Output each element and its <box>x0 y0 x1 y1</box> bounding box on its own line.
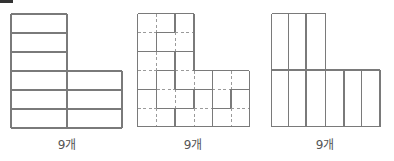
figure-2-count-label: 9개 <box>184 135 203 152</box>
corner-mark <box>0 0 13 3</box>
figure-1-count-label: 9개 <box>58 135 77 152</box>
figure-3-vertical-strips <box>272 14 380 127</box>
figure-stage: 9개 9개 9개 <box>0 0 394 161</box>
figure-1-horizontal-strips <box>11 14 122 128</box>
figure-2-grid-pieces <box>138 14 250 127</box>
figure-3-count-label: 9개 <box>316 135 335 152</box>
